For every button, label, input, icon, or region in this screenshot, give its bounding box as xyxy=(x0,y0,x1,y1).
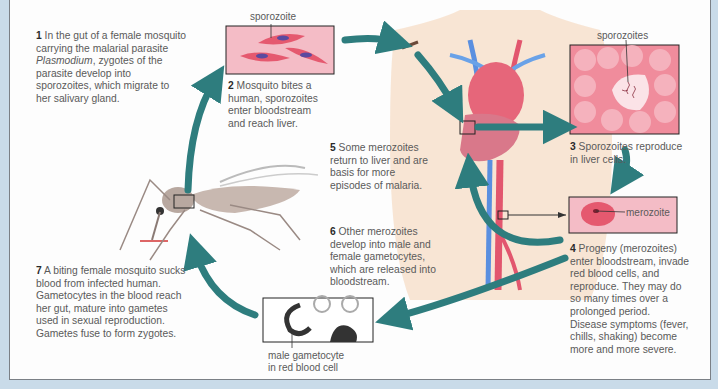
step-6-text: 6 Other merozoites develop into male and… xyxy=(330,226,440,289)
merozoite-label: merozoite xyxy=(626,207,670,218)
sporozoite-cells-image xyxy=(226,24,334,74)
mosquito-icon xyxy=(120,166,318,260)
step-7-text: 7 A biting female mosquito sucks blood f… xyxy=(36,265,186,341)
arrow-gametocyte-to-mosquito xyxy=(195,250,255,315)
step-2-text: 2 Mosquito bites a human, sporozoites en… xyxy=(228,80,328,130)
sporozoites-label: sporozoites xyxy=(597,30,648,41)
arrow-2-to-human xyxy=(345,38,396,42)
gametocyte-label: male gametocyte in red blood cell xyxy=(268,350,344,374)
liver-cells-image xyxy=(570,40,679,134)
gametocyte-image xyxy=(263,296,373,348)
step-1-text: 1 In the gut of a female mosquito carryi… xyxy=(36,30,186,106)
step-3-text: 3 Sporozoites reproduce in liver cells. xyxy=(570,141,685,166)
arrow-1-to-2 xyxy=(188,80,215,190)
step-4-text: 4 Progeny (merozoites) enter bloodstream… xyxy=(570,243,690,356)
step-5-text: 5 Some merozoites return to liver and ar… xyxy=(330,142,435,192)
sporozoite-label: sporozoite xyxy=(250,11,296,22)
